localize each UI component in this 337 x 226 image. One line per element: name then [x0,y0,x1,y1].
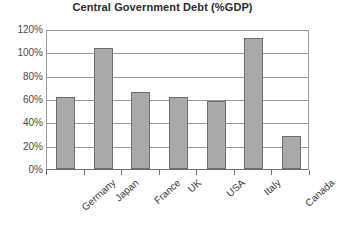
y-axis-tick-label: 80% [1,71,43,82]
y-axis-tick-label: 20% [1,141,43,152]
gridline [47,53,308,54]
bar [94,48,113,169]
y-axis-tick-label: 100% [1,47,43,58]
x-axis-tick [234,170,235,175]
gridline [47,77,308,78]
x-axis-category-label: Japan [113,177,141,203]
bar [207,101,226,169]
y-axis-tick-label: 40% [1,117,43,128]
y-axis-tick-label: 120% [1,24,43,35]
x-axis-tick [196,170,197,175]
chart-title: Central Government Debt (%GDP) [0,1,325,13]
x-axis-tick [271,170,272,175]
x-axis-category-label: Germany [79,177,117,213]
x-axis-category-label: Italy [261,177,282,197]
bar [244,38,263,169]
y-axis-tick-label: 0% [1,164,43,175]
x-axis-category-label: Canada [303,177,336,209]
x-axis-category-label: USA [224,177,247,199]
x-axis-category-label: France [152,177,182,206]
bar [56,97,75,169]
x-axis-category-label: UK [185,177,203,194]
bar [131,92,150,169]
x-axis-tick [159,170,160,175]
y-axis-tick-label: 60% [1,94,43,105]
x-axis-tick [121,170,122,175]
bar [282,136,301,169]
x-axis-tick [84,170,85,175]
x-axis-tick [46,170,47,175]
x-axis-tick [309,170,310,175]
plot-area [46,30,309,170]
bar [169,97,188,169]
